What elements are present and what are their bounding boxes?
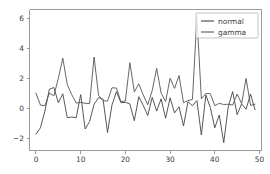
x-tick-label: 0 <box>34 155 39 164</box>
x-tick-label: 50 <box>255 155 265 164</box>
y-tick-label: 4 <box>19 44 24 53</box>
y-tick-label: 2 <box>19 74 24 83</box>
x-tick-label: 40 <box>210 155 220 164</box>
x-tick-label: 10 <box>76 155 86 164</box>
figure-canvas: −20246 01020304050 normalgamma <box>0 0 270 174</box>
y-tick-label: −2 <box>13 134 24 143</box>
legend-label-normal: normal <box>218 17 244 26</box>
y-tick-label: 0 <box>19 104 24 113</box>
x-tick-label: 30 <box>165 155 175 164</box>
legend-label-gamma: gamma <box>218 28 246 37</box>
y-tick-label: 6 <box>19 14 24 23</box>
x-tick-label: 20 <box>121 155 131 164</box>
line-chart: −20246 01020304050 normalgamma <box>0 0 270 174</box>
chart-legend[interactable]: normalgamma <box>196 13 258 38</box>
